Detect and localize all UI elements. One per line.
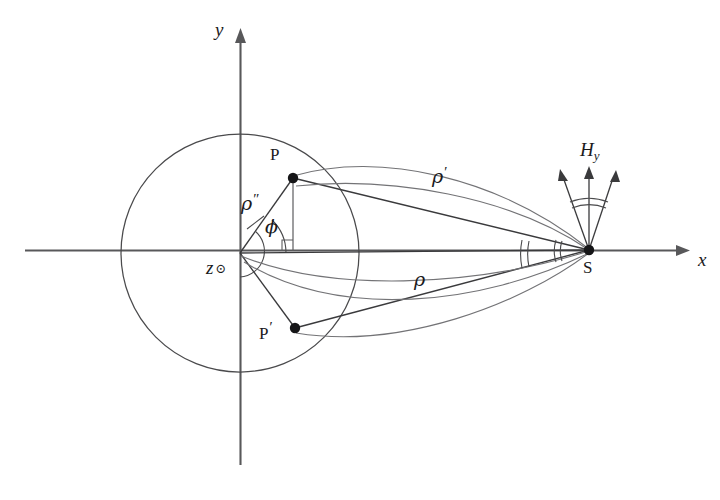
right-angle-marker xyxy=(282,240,293,251)
source-cone-arc-inner xyxy=(528,241,529,267)
point-dot-S[interactable] xyxy=(584,245,594,255)
z-axis-letter: z xyxy=(206,257,213,278)
source-cone-arc-outer xyxy=(521,240,522,268)
rho-prime-glyph: ρ xyxy=(432,165,443,187)
ray-P-prime-to-S xyxy=(295,250,589,328)
source-rays xyxy=(240,178,589,328)
y-axis-label: y xyxy=(215,20,223,39)
label-rho-double-prime: ρ″ xyxy=(241,192,258,213)
z-axis-out-of-plane-label: z⊙ xyxy=(206,258,226,277)
H-field-arrow-fan xyxy=(558,166,620,250)
H-field-letter: H xyxy=(580,139,594,160)
point-label-P-prime: P′ xyxy=(259,320,272,342)
label-rho-prime: ρ′ xyxy=(432,165,446,186)
perpendicular-group xyxy=(282,179,293,251)
fan-arrow-right-head xyxy=(610,170,620,182)
prime-mark-P: ′ xyxy=(268,319,271,335)
curve-lower-envelope xyxy=(296,253,589,337)
fan-arrow-center-head xyxy=(584,166,594,179)
diagram-svg xyxy=(0,0,720,500)
point-dots xyxy=(288,173,594,333)
rho-double-prime-glyph: ρ xyxy=(241,192,252,214)
point-dot-P-prime[interactable] xyxy=(290,323,300,333)
label-H-y: Hy xyxy=(580,140,600,162)
label-rho: ρ xyxy=(414,270,425,289)
y-axis-arrowhead xyxy=(235,28,246,43)
curve-rho-prime-lower xyxy=(296,184,589,250)
fan-arrow-right xyxy=(589,178,613,250)
point-label-S: S xyxy=(583,259,592,276)
out-of-plane-dot-icon: ⊙ xyxy=(215,261,226,276)
fan-arrow-left-head xyxy=(558,169,568,181)
x-axis-arrowhead xyxy=(676,245,690,256)
point-label-P: P xyxy=(270,146,279,163)
x-axis-label: x xyxy=(698,250,706,269)
H-field-subscript: y xyxy=(594,148,600,163)
prime-mark-rho: ′ xyxy=(443,164,446,180)
figure-canvas: y x z⊙ P P′ S ρ″ ϕ ρ′ ρ Hy xyxy=(0,0,720,500)
point-dot-P[interactable] xyxy=(288,173,298,183)
label-phi-angle: ϕ xyxy=(265,217,278,236)
double-prime-mark: ″ xyxy=(252,191,258,207)
ray-P-to-S xyxy=(293,178,589,250)
